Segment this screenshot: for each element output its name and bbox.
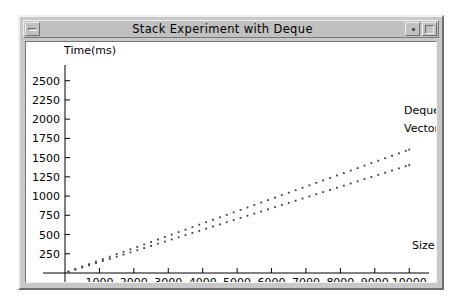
data-point	[336, 187, 338, 189]
x-tick-label: 9000	[361, 276, 389, 283]
y-axis-title: Time(ms)	[63, 44, 116, 57]
data-point	[295, 189, 297, 191]
data-point	[398, 152, 400, 154]
y-tick-label: 250	[39, 248, 60, 261]
data-points-group	[68, 149, 411, 273]
data-point	[143, 247, 145, 249]
data-point	[370, 176, 372, 178]
data-point	[212, 219, 214, 221]
data-point	[191, 232, 193, 234]
data-point	[157, 243, 159, 245]
data-point	[329, 189, 331, 191]
data-point	[109, 258, 111, 260]
x-tick-label: 10000	[392, 276, 427, 283]
x-tick-label: 8000	[326, 276, 354, 283]
data-point	[295, 200, 297, 202]
data-point	[198, 224, 200, 226]
data-point	[391, 170, 393, 172]
series-vector	[68, 164, 411, 273]
data-point	[377, 174, 379, 176]
y-tick-label: 1250	[32, 171, 60, 184]
data-point	[370, 162, 372, 164]
data-point	[253, 213, 255, 215]
data-point	[164, 236, 166, 238]
window-controls-group	[404, 22, 438, 36]
data-point	[102, 260, 104, 262]
data-point	[68, 271, 70, 273]
data-point	[240, 217, 242, 219]
data-point	[150, 245, 152, 247]
data-point	[102, 258, 104, 260]
data-point	[164, 241, 166, 243]
x-tick-label: 4000	[189, 276, 217, 283]
data-point	[143, 243, 145, 245]
data-point	[191, 226, 193, 228]
data-point	[198, 230, 200, 232]
x-tick-label: 5000	[223, 276, 251, 283]
data-point	[405, 165, 407, 167]
y-tick-label: 750	[39, 209, 60, 222]
y-tick-label: 1000	[32, 190, 60, 203]
axes-group	[43, 65, 429, 282]
data-point	[178, 231, 180, 233]
data-point	[136, 246, 138, 248]
data-point	[123, 251, 125, 253]
data-point	[391, 155, 393, 157]
data-point	[357, 180, 359, 182]
x-tick-label: 2000	[120, 276, 148, 283]
restore-button[interactable]	[405, 22, 420, 36]
data-point	[185, 229, 187, 231]
data-point	[212, 226, 214, 228]
data-point	[205, 228, 207, 230]
data-point	[226, 221, 228, 223]
data-point	[178, 236, 180, 238]
data-point	[81, 267, 83, 269]
data-point	[357, 167, 359, 169]
data-point	[116, 256, 118, 258]
y-tick-label: 1500	[32, 152, 60, 165]
data-point	[302, 198, 304, 200]
plot-canvas: 1000200030004000500060007000800090001000…	[25, 41, 437, 283]
data-point	[302, 187, 304, 189]
series-deque	[68, 149, 411, 273]
data-point	[123, 254, 125, 256]
legend-label-vector: Vector	[404, 122, 437, 135]
data-point	[267, 199, 269, 201]
data-point	[315, 182, 317, 184]
data-point	[274, 206, 276, 208]
data-point	[309, 184, 311, 186]
x-tick-label: 3000	[154, 276, 182, 283]
data-point	[260, 202, 262, 204]
data-point	[171, 234, 173, 236]
data-point	[240, 209, 242, 211]
maximize-button[interactable]	[422, 22, 437, 36]
data-point	[309, 195, 311, 197]
y-tick-labels-group: 2505007501000125015001750200022502500	[32, 75, 60, 261]
minimize-button[interactable]	[25, 22, 40, 36]
data-point	[336, 175, 338, 177]
data-point	[364, 165, 366, 167]
data-point	[247, 215, 249, 217]
data-point	[233, 219, 235, 221]
data-point	[130, 251, 132, 253]
application-window: Stack Experiment with Deque 100020003000…	[18, 15, 444, 290]
y-tick-label: 500	[39, 229, 60, 242]
data-point	[364, 178, 366, 180]
x-axis-title: Size	[412, 239, 435, 252]
window-title: Stack Experiment with Deque	[41, 22, 404, 36]
data-point	[109, 256, 111, 258]
data-point	[315, 193, 317, 195]
data-point	[74, 269, 76, 271]
data-point	[343, 185, 345, 187]
data-point	[329, 177, 331, 179]
axis-ticks-group	[65, 81, 409, 273]
y-tick-label: 2250	[32, 94, 60, 107]
data-point	[88, 264, 90, 266]
data-point	[408, 149, 410, 151]
data-point	[260, 211, 262, 213]
data-point	[350, 170, 352, 172]
title-bar[interactable]: Stack Experiment with Deque	[23, 20, 439, 38]
data-point	[377, 160, 379, 162]
x-tick-label: 7000	[292, 276, 320, 283]
data-point	[384, 157, 386, 159]
